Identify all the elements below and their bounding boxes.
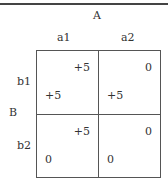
strategy-b1-label: b1: [17, 76, 31, 88]
payoff-b: +5: [107, 89, 123, 102]
payoff-a: 0: [145, 125, 152, 138]
top-rule: [0, 3, 168, 5]
strategy-b2-label: b2: [17, 140, 31, 152]
payoff-a: 0: [145, 61, 152, 74]
cell-b2-a2: 0 0: [99, 115, 160, 178]
payoff-a: +5: [74, 125, 90, 138]
payoff-b: 0: [45, 153, 52, 166]
player-b-label: B: [9, 107, 17, 119]
payoff-b: 0: [107, 153, 114, 166]
cell-b1-a2: 0 +5: [99, 51, 160, 114]
payoff-matrix: +5 +5 0 +5 +5 0 0 0: [36, 50, 161, 178]
player-a-label: A: [93, 10, 101, 22]
payoff-b: +5: [45, 89, 61, 102]
cell-b2-a1: +5 0: [37, 115, 98, 178]
payoff-a: +5: [74, 61, 90, 74]
strategy-a1-label: a1: [57, 32, 71, 44]
strategy-a2-label: a2: [121, 32, 135, 44]
cell-b1-a1: +5 +5: [37, 51, 98, 114]
